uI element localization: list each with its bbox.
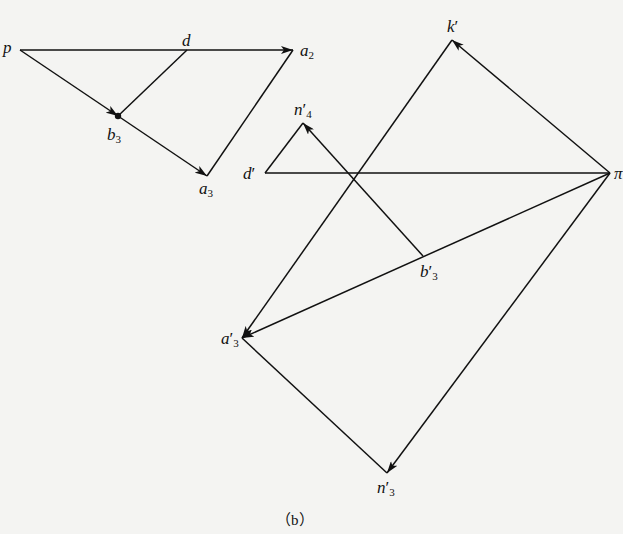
segment-p-b3: [20, 50, 118, 116]
label-k-prime: k′: [447, 18, 458, 35]
label-n4-prime: n′4: [294, 101, 312, 120]
label-b3: b3: [107, 126, 121, 145]
label-a3-prime: a′3: [221, 330, 239, 349]
label-a2: a2: [300, 42, 314, 61]
point-b3-dot: [115, 113, 121, 119]
segment-b3p-n4p: [303, 123, 423, 256]
segment-pi-n3p: [387, 173, 610, 473]
label-n3-prime: n′3: [377, 479, 395, 498]
label-d: d: [182, 32, 191, 49]
force-polygon-figure: p d a2 b3 a3 k′ n′4 d′ π b′3 a′3 n′3 （b）: [0, 0, 623, 534]
segment-a3p-n3p: [242, 338, 387, 473]
segment-b3-a3: [118, 116, 207, 176]
label-p: p: [3, 39, 12, 56]
segment-pi-k: [452, 40, 610, 173]
segment-dp-n4p: [265, 123, 303, 173]
label-b3-prime: b′3: [420, 263, 438, 282]
figure-caption: （b）: [276, 513, 314, 528]
label-d-prime: d′: [243, 165, 255, 182]
diagram-canvas: [0, 0, 623, 534]
label-a3: a3: [199, 180, 213, 199]
label-pi: π: [614, 165, 623, 182]
segment-a3-a2: [207, 50, 293, 176]
segment-pi-a3p: [242, 173, 610, 338]
segment-k-a3p: [242, 40, 452, 338]
segment-d-b3: [118, 50, 187, 116]
left-polygon: [20, 50, 293, 176]
